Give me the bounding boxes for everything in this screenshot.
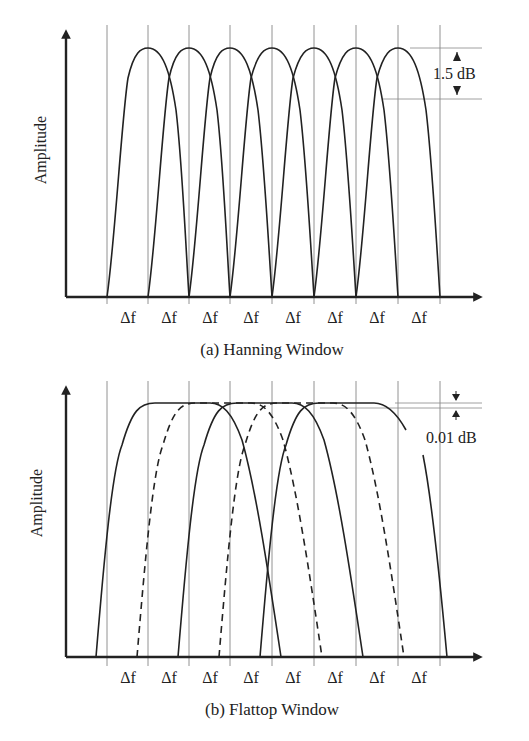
- db-annotation: 0.01 dB: [426, 429, 477, 446]
- x-tick-labels: Δf Δf Δf Δf Δf Δf Δf Δf: [120, 309, 427, 326]
- db-annotation: 1.5 dB: [433, 65, 476, 82]
- tick-label: Δf: [243, 309, 259, 326]
- y-axis-label: Amplitude: [28, 469, 46, 537]
- vertical-grid-lines: [107, 25, 440, 304]
- solid-curve-5-tail: [423, 455, 447, 657]
- chart-caption: (a) Hanning Window: [200, 340, 344, 359]
- tick-label: Δf: [411, 669, 427, 686]
- chart-caption: (b) Flattop Window: [205, 700, 340, 719]
- tick-label: Δf: [243, 669, 259, 686]
- vertical-grid-lines: [107, 381, 440, 666]
- solid-curve-3: [178, 403, 363, 657]
- tick-label: Δf: [285, 309, 301, 326]
- solid-curve-1: [96, 403, 281, 657]
- dashed-curve-4: [219, 403, 404, 657]
- tick-label: Δf: [327, 309, 343, 326]
- tick-label: Δf: [202, 309, 218, 326]
- tick-label: Δf: [161, 669, 177, 686]
- tick-label: Δf: [327, 669, 343, 686]
- tick-label: Δf: [120, 309, 136, 326]
- hanning-curves: [107, 48, 440, 297]
- tick-label: Δf: [285, 669, 301, 686]
- dashed-curve-2: [137, 403, 322, 657]
- tick-label: Δf: [369, 669, 385, 686]
- tick-label: Δf: [411, 309, 427, 326]
- db-dimension-arrows: [452, 391, 460, 420]
- tick-label: Δf: [369, 309, 385, 326]
- x-tick-labels: Δf Δf Δf Δf Δf Δf Δf Δf: [120, 669, 427, 686]
- tick-label: Δf: [120, 669, 136, 686]
- hanning-chart: Amplitude Δf Δf Δf Δf Δf Δf Δf Δf 1.5 dB…: [32, 25, 482, 359]
- figure: Amplitude Δf Δf Δf Δf Δf Δf Δf Δf 1.5 dB…: [0, 0, 529, 741]
- flattop-curves: [96, 403, 447, 657]
- tick-label: Δf: [161, 309, 177, 326]
- flattop-chart: Amplitude Δf Δf Δf Δf Δf Δf Δf Δf 0.01 d…: [28, 381, 482, 719]
- tick-label: Δf: [202, 669, 218, 686]
- y-axis-label: Amplitude: [32, 116, 50, 184]
